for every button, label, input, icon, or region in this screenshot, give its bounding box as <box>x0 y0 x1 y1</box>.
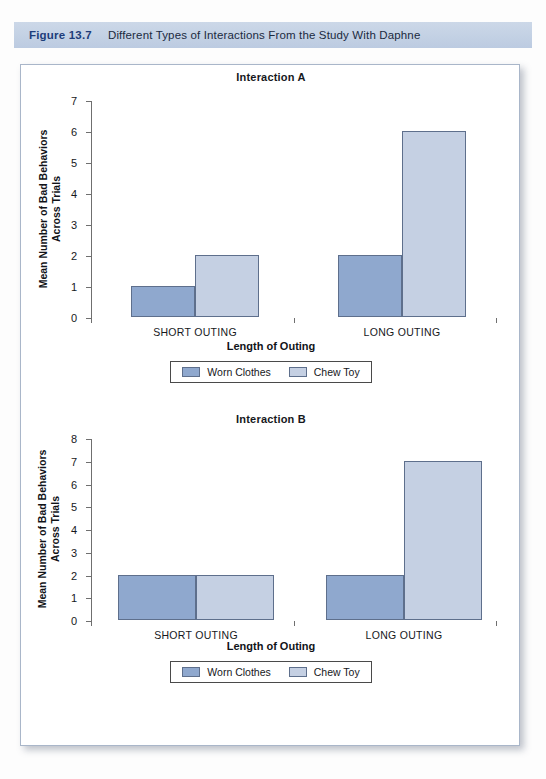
figure-card: Interaction A Mean Number of Bad Behavio… <box>20 64 520 746</box>
chart-a-legend: Worn Clothes Chew Toy <box>170 361 371 383</box>
y-tick-label: 6 <box>71 126 77 138</box>
bar-short-outing-worn-clothes <box>118 575 196 621</box>
chew-toy-swatch-icon <box>289 667 307 677</box>
x-category-label: SHORT OUTING <box>154 629 238 641</box>
x-tick <box>496 621 497 626</box>
y-tick-label: 0 <box>71 615 77 627</box>
y-tick: 6 <box>86 132 91 133</box>
y-tick: 2 <box>86 576 91 577</box>
chart-a-ylabel-line1: Mean Number of Bad Behaviors <box>36 129 48 288</box>
chart-interaction-b: Interaction B Mean Number of Bad Behavio… <box>21 413 521 743</box>
y-tick: 3 <box>86 553 91 554</box>
figure-caption-bar: Figure 13.7 Different Types of Interacti… <box>14 22 532 48</box>
bar-short-outing-worn-clothes <box>131 286 195 317</box>
y-tick-label: 4 <box>71 524 77 536</box>
chart-b-ylabel-line1: Mean Number of Bad Behaviors <box>36 450 48 609</box>
y-tick: 5 <box>86 507 91 508</box>
x-tick <box>294 621 295 626</box>
y-tick: 3 <box>86 225 91 226</box>
y-tick-label: 5 <box>71 157 77 169</box>
y-tick-label: 6 <box>71 479 77 491</box>
y-tick-label: 1 <box>71 281 77 293</box>
chart-a-legend-label-chew: Chew Toy <box>314 366 360 378</box>
y-tick-label: 4 <box>71 188 77 200</box>
bar-long-outing-worn-clothes <box>338 255 402 317</box>
y-tick: 1 <box>86 598 91 599</box>
chart-b-legend-label-chew: Chew Toy <box>314 666 360 678</box>
y-tick-label: 2 <box>71 570 77 582</box>
chart-a-title: Interaction A <box>21 71 521 83</box>
y-tick: 7 <box>86 101 91 102</box>
chart-b-legend: Worn Clothes Chew Toy <box>170 661 371 683</box>
y-tick: 2 <box>86 256 91 257</box>
figure-title: Different Types of Interactions From the… <box>108 29 421 41</box>
chart-b-xlabel: Length of Outing <box>21 640 521 652</box>
y-tick-label: 5 <box>71 501 77 513</box>
y-tick-label: 1 <box>71 592 77 604</box>
y-tick-label: 3 <box>71 219 77 231</box>
chart-b-y-axis <box>91 439 92 621</box>
worn-clothes-swatch-icon <box>182 667 200 677</box>
y-tick-label: 0 <box>71 312 77 324</box>
chart-a-plot: Mean Number of Bad Behaviors Across Tria… <box>21 83 521 333</box>
chart-interaction-a: Interaction A Mean Number of Bad Behavio… <box>21 71 521 411</box>
figure-number: Figure 13.7 <box>29 29 92 41</box>
chart-a-legend-item-worn-clothes: Worn Clothes <box>182 366 270 378</box>
chart-a-ylabel-line2: Across Trials <box>49 176 61 242</box>
x-category-label: SHORT OUTING <box>153 326 237 338</box>
bar-long-outing-chew-toy <box>402 131 466 317</box>
chart-a-legend-label-worn: Worn Clothes <box>207 366 270 378</box>
y-tick: 4 <box>86 530 91 531</box>
x-category-label: LONG OUTING <box>366 629 443 641</box>
bar-short-outing-chew-toy <box>196 575 274 621</box>
y-tick-label: 3 <box>71 547 77 559</box>
x-tick <box>91 318 92 323</box>
x-tick <box>91 621 92 626</box>
chew-toy-swatch-icon <box>289 367 307 377</box>
chart-b-axes: 012345678SHORT OUTINGLONG OUTING <box>91 439 496 621</box>
chart-b-plot: Mean Number of Bad Behaviors Across Tria… <box>21 425 521 633</box>
chart-a-xlabel: Length of Outing <box>21 340 521 352</box>
x-tick <box>496 318 497 323</box>
chart-b-legend-item-chew-toy: Chew Toy <box>289 666 360 678</box>
y-tick: 6 <box>86 485 91 486</box>
chart-a-legend-item-chew-toy: Chew Toy <box>289 366 360 378</box>
y-tick: 4 <box>86 194 91 195</box>
y-tick-label: 2 <box>71 250 77 262</box>
y-tick: 1 <box>86 287 91 288</box>
y-tick-label: 8 <box>71 433 77 445</box>
chart-b-legend-item-worn-clothes: Worn Clothes <box>182 666 270 678</box>
y-tick: 8 <box>86 439 91 440</box>
y-tick-label: 7 <box>71 95 77 107</box>
chart-b-title: Interaction B <box>21 413 521 425</box>
y-tick-label: 7 <box>71 456 77 468</box>
chart-a-ylabel: Mean Number of Bad Behaviors Across Tria… <box>36 85 62 332</box>
worn-clothes-swatch-icon <box>182 367 200 377</box>
y-tick: 7 <box>86 462 91 463</box>
chart-a-axes: 01234567SHORT OUTINGLONG OUTING <box>91 101 496 318</box>
chart-b-ylabel: Mean Number of Bad Behaviors Across Tria… <box>36 423 62 635</box>
x-category-label: LONG OUTING <box>364 326 441 338</box>
bar-long-outing-worn-clothes <box>326 575 404 621</box>
chart-a-y-axis <box>91 101 92 318</box>
y-tick: 5 <box>86 163 91 164</box>
bar-long-outing-chew-toy <box>404 461 482 620</box>
chart-b-legend-label-worn: Worn Clothes <box>207 666 270 678</box>
x-tick <box>294 318 295 323</box>
chart-b-ylabel-line2: Across Trials <box>49 496 61 562</box>
bar-short-outing-chew-toy <box>195 255 259 317</box>
